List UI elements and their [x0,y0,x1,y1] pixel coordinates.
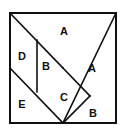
tangram-svg [0,0,127,131]
label-piece-c-square: C [60,92,68,103]
label-piece-d-left: D [18,51,26,62]
label-piece-b-center: B [42,61,50,72]
label-piece-b-bottomright: B [89,108,97,119]
label-piece-a-right: A [88,63,96,74]
tangram-figure: A A D B E C B [0,0,127,131]
label-piece-a-top: A [60,26,68,37]
label-piece-e-bottomleft: E [18,99,25,110]
